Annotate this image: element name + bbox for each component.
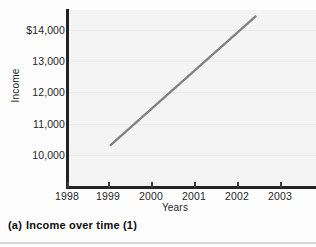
x-axis-tick	[151, 182, 153, 188]
y-axis-title: Income	[10, 56, 21, 116]
gridline	[68, 30, 316, 31]
y-axis-tick-label: 13,000	[32, 56, 65, 67]
x-axis-tick-label: 2002	[217, 190, 257, 202]
x-axis-tick-label: 2001	[174, 190, 214, 202]
x-axis-tick	[280, 182, 282, 188]
x-axis-tick-label: 2000	[131, 190, 171, 202]
gridline	[68, 92, 316, 93]
x-axis-tick	[237, 182, 239, 188]
x-axis-line	[66, 186, 316, 189]
gridline	[68, 61, 316, 62]
x-axis-tick	[194, 182, 196, 188]
figure-caption: (a)Income over time (1)	[8, 219, 137, 231]
x-axis-tick	[108, 182, 110, 188]
plot-area	[68, 10, 316, 188]
figure-caption-text: Income over time (1)	[26, 219, 137, 231]
y-axis-tick-label: 12,000	[32, 87, 65, 98]
y-axis-tick-label: 11,000	[33, 119, 65, 130]
gridline	[68, 155, 316, 156]
x-axis-tick-label: 1998	[47, 190, 87, 202]
x-axis-tick-label: 1999	[88, 190, 128, 202]
figure-income-over-time: $14,000 13,000 12,000 11,000 10,000 1998…	[0, 0, 316, 247]
y-axis-tick-label: 10,000	[32, 150, 65, 161]
x-axis-title: Years	[145, 202, 205, 213]
bottom-divider	[0, 242, 316, 244]
y-axis-tick-label: $14,000	[26, 25, 65, 36]
x-axis-tick	[67, 182, 69, 188]
x-axis-tick-label: 2003	[260, 190, 300, 202]
gridline	[68, 124, 316, 125]
figure-caption-index: (a)	[8, 219, 22, 231]
y-axis-line	[66, 9, 69, 189]
